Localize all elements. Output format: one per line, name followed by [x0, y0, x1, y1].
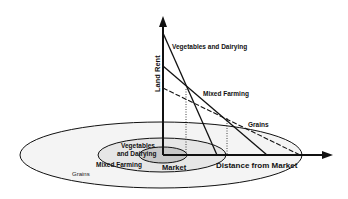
x-axis-label: Distance from Market — [216, 161, 298, 170]
y-axis-label: Land Rent — [153, 55, 162, 92]
grains-line-label: Grains — [248, 121, 269, 128]
y-axis-arrow-icon — [159, 16, 167, 27]
mixed-farming-line-label: Mixed Farming — [203, 90, 249, 98]
market-label: Market — [162, 163, 187, 172]
x-axis-arrow-icon — [322, 151, 333, 159]
outer-ring-label: Grains — [72, 171, 90, 177]
inner-ring-label-line1: Vegetables — [121, 142, 155, 150]
inner-ring-label-line2: and Dairying — [117, 150, 156, 158]
vegetables-line-label: Vegetables and Dairying — [172, 43, 247, 51]
land-rent-diagram: Land Rent Distance from Market Vegetable… — [0, 0, 348, 199]
middle-ring-label: Mixed Farming — [96, 161, 142, 169]
